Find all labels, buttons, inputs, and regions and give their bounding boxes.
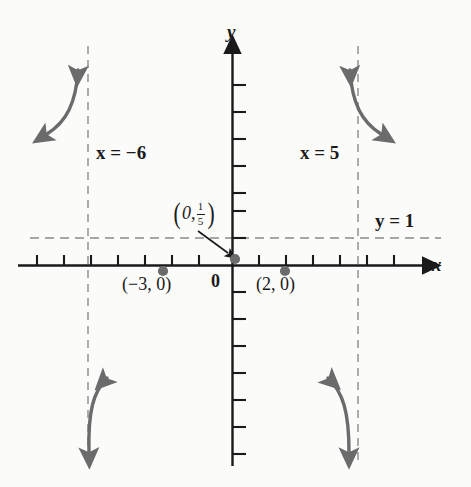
y-intercept-label: ( 0, 1 5 ) — [172, 200, 216, 226]
x-intercept-right-label: (2, 0) — [256, 275, 295, 293]
fraction-denominator: 5 — [197, 216, 205, 228]
origin-label: 0 — [211, 272, 220, 290]
curve-branch-lower-right — [328, 378, 349, 452]
y-intercept-close-paren: ) — [207, 201, 214, 226]
y-intercept-fraction: 1 5 — [197, 201, 205, 227]
y-intercept-leader-arrow — [198, 231, 228, 253]
vertical-asymptote-left-label: x = −6 — [96, 143, 146, 162]
curve-branch-upper-right — [350, 70, 381, 134]
vertical-asymptote-right-label: x = 5 — [300, 143, 339, 162]
rational-function-graph: y x 0 x = −6 x = 5 y = 1 (−3, 0) (2, 0) … — [0, 0, 471, 487]
fraction-numerator: 1 — [197, 201, 205, 213]
y-axis-label: y — [227, 22, 235, 41]
x-intercept-left-label: (−3, 0) — [122, 275, 171, 293]
curve-branch-upper-left — [47, 70, 78, 134]
y-intercept-x-value: 0, — [182, 204, 196, 222]
y-intercept-open-paren: ( — [173, 201, 180, 226]
horizontal-asymptote-label: y = 1 — [375, 211, 414, 230]
point-y-intercept — [230, 254, 240, 264]
curve-branch-lower-left — [89, 378, 107, 452]
y-axis-ticks — [233, 85, 246, 454]
graph-canvas — [0, 0, 471, 487]
x-axis-label: x — [432, 255, 442, 274]
